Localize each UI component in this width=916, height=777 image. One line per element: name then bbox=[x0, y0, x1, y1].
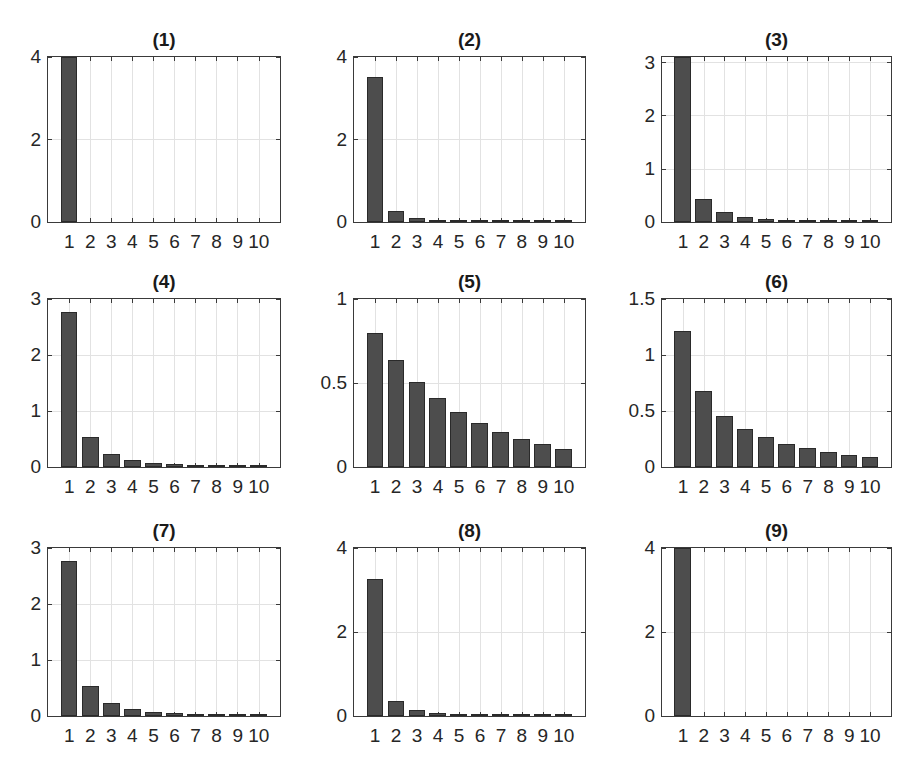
bar-5 bbox=[450, 714, 467, 716]
x-tick-mark bbox=[480, 548, 481, 552]
x-tick-mark bbox=[828, 57, 829, 61]
bar-7 bbox=[492, 714, 509, 716]
gridline-vertical bbox=[216, 548, 217, 716]
y-tick-mark bbox=[354, 716, 358, 717]
x-tick-mark bbox=[438, 548, 439, 552]
bar-5 bbox=[450, 220, 467, 222]
gridline-vertical bbox=[766, 57, 767, 222]
x-tick-mark bbox=[543, 548, 544, 552]
gridline-vertical bbox=[237, 299, 238, 467]
x-tick-mark bbox=[849, 57, 850, 61]
y-tick-mark bbox=[48, 411, 52, 412]
bar-9 bbox=[534, 220, 551, 222]
y-tick-label: 4 bbox=[1, 47, 41, 66]
subplot-title: (9) bbox=[661, 520, 892, 542]
y-tick-mark bbox=[887, 632, 891, 633]
x-tick-mark bbox=[417, 299, 418, 303]
bar-1 bbox=[674, 331, 691, 467]
y-tick-label: 1 bbox=[615, 159, 655, 178]
bar-2 bbox=[695, 199, 712, 222]
x-tick-mark bbox=[216, 299, 217, 303]
x-tick-mark bbox=[745, 548, 746, 552]
y-tick-label: 0.5 bbox=[307, 373, 347, 392]
x-tick-mark bbox=[90, 57, 91, 61]
subplot-title: (7) bbox=[47, 520, 281, 542]
subplot-title: (5) bbox=[353, 271, 586, 293]
y-tick-label: 4 bbox=[615, 538, 655, 557]
y-tick-mark bbox=[48, 604, 52, 605]
y-tick-mark bbox=[887, 548, 891, 549]
bar-1 bbox=[674, 57, 691, 222]
bar-2 bbox=[82, 686, 99, 716]
bar-7 bbox=[187, 714, 204, 716]
gridline-vertical bbox=[132, 548, 133, 716]
x-tick-mark bbox=[259, 299, 260, 303]
x-tick-mark bbox=[849, 299, 850, 303]
x-tick-mark bbox=[69, 299, 70, 303]
bar-7 bbox=[187, 465, 204, 467]
x-tick-mark bbox=[745, 57, 746, 61]
bar-3 bbox=[409, 710, 426, 716]
x-tick-mark bbox=[724, 57, 725, 61]
x-tick-mark bbox=[69, 548, 70, 552]
x-tick-mark bbox=[849, 712, 850, 716]
gridline-horizontal bbox=[48, 355, 280, 356]
y-tick-mark bbox=[662, 62, 666, 63]
x-tick-mark bbox=[459, 57, 460, 61]
x-tick-mark bbox=[396, 548, 397, 552]
y-tick-label: 3 bbox=[1, 289, 41, 308]
x-tick-mark bbox=[522, 57, 523, 61]
y-tick-mark bbox=[581, 467, 585, 468]
plot-area bbox=[47, 547, 281, 717]
x-tick-label: 10 bbox=[247, 232, 271, 251]
x-tick-mark bbox=[870, 712, 871, 716]
y-tick-mark bbox=[276, 139, 280, 140]
y-tick-mark bbox=[887, 169, 891, 170]
plot-area bbox=[353, 56, 586, 223]
x-tick-mark bbox=[259, 218, 260, 222]
bar-8 bbox=[820, 452, 837, 467]
bar-10 bbox=[862, 220, 879, 222]
y-tick-mark bbox=[887, 467, 891, 468]
y-tick-label: 0 bbox=[1, 212, 41, 231]
x-tick-mark bbox=[745, 299, 746, 303]
y-tick-label: 2 bbox=[615, 622, 655, 641]
gridline-vertical bbox=[807, 57, 808, 222]
gridline-vertical bbox=[704, 57, 705, 222]
bar-2 bbox=[82, 437, 99, 467]
y-tick-mark bbox=[354, 548, 358, 549]
gridline-horizontal bbox=[662, 355, 891, 356]
bar-5 bbox=[450, 412, 467, 467]
y-tick-mark bbox=[662, 467, 666, 468]
x-tick-mark bbox=[237, 218, 238, 222]
gridline-vertical bbox=[216, 299, 217, 467]
gridline-horizontal bbox=[48, 604, 280, 605]
y-tick-mark bbox=[581, 222, 585, 223]
y-tick-mark bbox=[887, 115, 891, 116]
gridline-vertical bbox=[745, 57, 746, 222]
x-tick-mark bbox=[111, 57, 112, 61]
bar-3 bbox=[409, 382, 426, 467]
bar-6 bbox=[778, 444, 795, 467]
x-tick-mark bbox=[870, 548, 871, 552]
bar-1 bbox=[674, 548, 691, 716]
bar-6 bbox=[778, 220, 795, 222]
x-tick-mark bbox=[807, 548, 808, 552]
subplot-title: (6) bbox=[661, 271, 892, 293]
y-tick-label: 0.5 bbox=[615, 401, 655, 420]
y-tick-label: 1 bbox=[1, 401, 41, 420]
bar-1 bbox=[367, 579, 384, 716]
x-tick-mark bbox=[153, 548, 154, 552]
x-tick-mark bbox=[111, 218, 112, 222]
gridline-vertical bbox=[174, 548, 175, 716]
bar-5 bbox=[145, 463, 162, 467]
x-tick-label: 10 bbox=[552, 477, 576, 496]
x-tick-mark bbox=[459, 299, 460, 303]
y-tick-mark bbox=[48, 467, 52, 468]
plot-area bbox=[661, 56, 892, 223]
bar-10 bbox=[250, 714, 267, 716]
y-tick-mark bbox=[48, 716, 52, 717]
gridline-vertical bbox=[807, 299, 808, 467]
y-tick-mark bbox=[48, 548, 52, 549]
x-tick-label: 10 bbox=[858, 477, 882, 496]
